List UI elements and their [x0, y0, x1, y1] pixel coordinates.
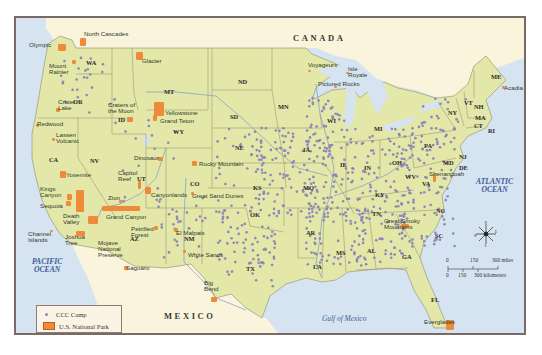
park-label: Acadia: [504, 85, 523, 91]
national-park-area: [127, 117, 133, 122]
state-label-id: ID: [118, 117, 125, 123]
park-label: BigBend: [204, 280, 218, 292]
state-label-il: IL: [340, 162, 347, 168]
compass-s: S: [485, 244, 487, 247]
legend-label: CCC Camp: [56, 311, 87, 318]
scale-mi-150: 150: [470, 258, 478, 263]
state-label-co: CO: [190, 181, 200, 187]
state-label-nh: NH: [474, 104, 484, 110]
state-label-vt: VT: [464, 100, 473, 106]
state-label-in: IN: [364, 165, 371, 171]
national-park-area: [192, 161, 197, 166]
state-label-ri: RI: [488, 128, 495, 134]
park-label: Zion: [108, 195, 120, 201]
state-label-me: ME: [491, 74, 501, 80]
compass-n: N: [485, 221, 488, 225]
park-label: Great Sand Dunes: [192, 193, 243, 199]
national-park-area: [58, 44, 66, 51]
park-label: Glacier: [142, 58, 162, 64]
park-label: JoshuaTree: [65, 234, 85, 246]
scale-bar: 0 150 300 miles 0 150 300 kilometers: [446, 258, 526, 284]
state-label-nv: NV: [90, 158, 99, 164]
park-label: Great SmokyMountains: [384, 218, 420, 230]
park-label: DeathValley: [63, 213, 80, 225]
legend-label: U.S. National Park: [59, 323, 109, 330]
state-label-md: MD: [443, 160, 454, 166]
national-park-area: [154, 226, 158, 230]
park-label: Sequoia: [40, 203, 63, 209]
state-label-wi: WI: [327, 118, 336, 124]
compass-rose-icon: N S E W: [474, 221, 498, 247]
state-label-ny: NY: [448, 110, 457, 116]
state-label-va: VA: [422, 181, 430, 187]
legend-item-national-park: U.S. National Park: [43, 322, 109, 330]
park-label: Yellowstone: [165, 110, 198, 116]
park-label: Rocky Mountain: [199, 161, 243, 167]
park-label: El Malpais: [176, 230, 205, 236]
compass-e: E: [495, 230, 497, 234]
national-park-area: [52, 138, 55, 141]
state-label-ct: CT: [474, 123, 483, 129]
ccc-camp-dot-icon: [45, 313, 48, 316]
national-park-area: [102, 206, 140, 211]
state-label-tx: TX: [246, 266, 255, 272]
state-label-nm: NM: [184, 236, 195, 242]
park-label: CapitolReef: [118, 170, 137, 182]
national-park-area: [76, 190, 84, 212]
park-label: Dinosaur: [134, 155, 159, 161]
country-label: CANADA: [293, 34, 345, 43]
park-label: Grand Teton: [160, 118, 194, 124]
national-park-area: [66, 201, 71, 206]
national-park-area: [88, 216, 98, 224]
park-label: Saguaro: [126, 265, 149, 271]
legend-item-ccc-camp: CCC Camp: [43, 311, 87, 318]
scale-mi-300: 300 miles: [492, 258, 513, 263]
national-park-area: [67, 194, 72, 200]
state-label-ky: KY: [375, 192, 385, 198]
national-park-area: [154, 102, 164, 116]
park-label: White Sands: [188, 252, 223, 258]
state-label-ms: MS: [336, 250, 346, 256]
scale-km-150: 150: [458, 273, 466, 278]
state-label-ut: UT: [137, 176, 146, 182]
state-label-ia: IA: [303, 147, 310, 153]
park-label: IsleRoyale: [348, 66, 367, 78]
park-label: PetrifiedForest: [131, 226, 154, 238]
state-label-pa: PA: [424, 143, 432, 149]
state-label-sc: SC: [435, 233, 443, 239]
state-label-ga: GA: [402, 254, 412, 260]
state-label-wa: WA: [86, 60, 96, 66]
water-body-label: Gulf of Mexico: [322, 315, 366, 322]
state-label-fl: FL: [431, 297, 439, 303]
state-label-mo: MO: [303, 185, 314, 191]
state-label-al: AL: [367, 248, 376, 254]
park-label: Redwood: [37, 121, 63, 127]
park-label: Yosemite: [66, 172, 91, 178]
park-label: KingsCanyon: [40, 186, 61, 198]
state-label-oh: OH: [392, 160, 402, 166]
state-label-ca: CA: [49, 157, 58, 163]
national-park-area: [72, 60, 76, 64]
park-label: ChannelIslands: [28, 231, 51, 243]
scale-km-0: 0: [446, 273, 449, 278]
water-body-label: PACIFICOCEAN: [32, 258, 62, 273]
park-label: Grand Canyon: [106, 214, 146, 220]
state-label-nj: NJ: [459, 154, 467, 160]
state-label-mi: MI: [374, 126, 383, 132]
map-legend: CCC Camp U.S. National Park: [36, 305, 122, 333]
state-label-wy: WY: [173, 129, 184, 135]
scale-mi-0: 0: [446, 258, 449, 263]
park-label: Voyageurs: [308, 62, 337, 68]
state-label-ok: OK: [250, 212, 260, 218]
park-label: North Cascades: [84, 31, 128, 37]
national-park-area: [183, 250, 186, 253]
park-label: CraterLake: [58, 99, 75, 111]
park-label: Everglades: [424, 319, 455, 325]
park-label: Shenandoah: [429, 171, 464, 177]
state-label-mn: MN: [278, 104, 289, 110]
state-label-nc: NC: [436, 208, 445, 214]
state-label-tn: TN: [372, 211, 381, 217]
national-park-swatch-icon: [43, 322, 55, 330]
map-frame: CANADAMEXICOPACIFICOCEANATLANTICOCEANGul…: [14, 16, 526, 335]
park-label: MojaveNationalPreserve: [98, 240, 123, 259]
